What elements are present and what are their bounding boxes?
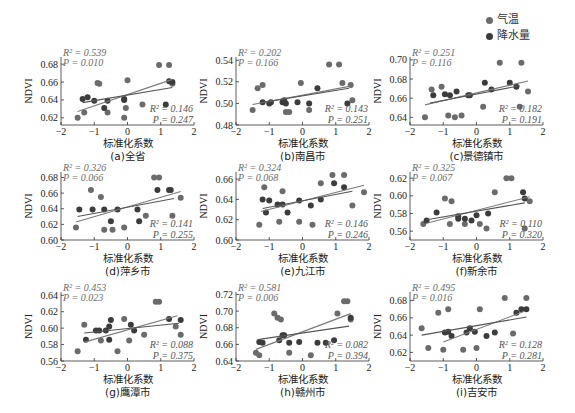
data-point [349, 202, 355, 208]
y-tick-label: 0.62 [41, 112, 59, 123]
data-point [121, 224, 127, 230]
regression-line [259, 326, 349, 339]
y-tick-label: 0.60 [41, 235, 59, 246]
stats-precipitation-r2: R² = 0.110 [498, 218, 542, 229]
panel-title: (g)鹰潭市 [105, 386, 150, 398]
stats-temperature-p: P = 0.006 [237, 292, 278, 303]
y-tick-label: 0.66 [390, 312, 408, 323]
stats-precipitation-r2: R² = 0.146 [149, 103, 193, 114]
data-point [483, 226, 489, 232]
stats-precipitation-r2: R² = 0.088 [149, 339, 193, 350]
data-point [523, 295, 529, 301]
data-point [455, 216, 461, 222]
x-axis-label: 标准化系数 [103, 252, 154, 264]
data-point [250, 107, 256, 113]
y-tick-label: 0.62 [390, 347, 408, 358]
data-point [339, 80, 345, 86]
data-point [439, 84, 445, 90]
legend-label-temperature: 气温 [497, 12, 519, 28]
data-point [286, 350, 292, 356]
scatter-panel: −2−10120.480.500.520.54NDVI标准化系数(b)南昌市R²… [198, 47, 372, 162]
data-point [106, 337, 112, 343]
x-axis-label: 标准化系数 [452, 373, 503, 385]
y-tick-label: 0.66 [390, 93, 408, 104]
data-point [518, 60, 524, 66]
data-point [125, 77, 131, 83]
legend-item-temperature: 气温 [486, 12, 530, 28]
x-tick-label: 1 [333, 126, 338, 137]
y-axis-label: NDVI [23, 194, 34, 219]
data-point [266, 197, 272, 203]
data-point [474, 345, 480, 351]
data-point [334, 311, 340, 317]
data-point [260, 196, 266, 202]
y-tick-label: 0.64 [41, 290, 59, 301]
y-axis-label: NDVI [372, 79, 383, 104]
data-point [141, 332, 147, 338]
data-point [492, 330, 498, 336]
y-axis-label: NDVI [23, 79, 34, 104]
x-tick-label: 2 [192, 126, 197, 137]
panel-title: (f)新余市 [456, 265, 498, 277]
x-tick-label: 1 [333, 241, 338, 252]
data-point [336, 62, 342, 68]
temperature-marker-icon [486, 17, 493, 24]
data-point [474, 212, 480, 218]
panel-title: (i)吉安市 [456, 386, 497, 398]
y-tick-label: 0.70 [216, 306, 234, 317]
legend: 气温 降水量 [486, 12, 530, 44]
legend-item-precipitation: 降水量 [486, 28, 530, 44]
data-point [75, 115, 81, 121]
x-tick-label: −1 [438, 241, 449, 252]
data-point [286, 109, 292, 115]
y-tick-label: 0.58 [390, 208, 408, 219]
x-tick-label: 0 [125, 241, 130, 252]
stats-temperature-p: P = 0.066 [62, 172, 103, 183]
data-point [314, 85, 320, 91]
x-tick-label: −1 [89, 241, 100, 252]
data-point [454, 88, 460, 94]
x-tick-label: 1 [333, 362, 338, 373]
scatter-panel: −2−10120.560.580.600.620.64NDVI标准化系数(g)鹰… [23, 282, 197, 398]
x-tick-label: 0 [300, 241, 305, 252]
data-point [326, 62, 332, 68]
data-point [121, 115, 127, 121]
data-point [430, 92, 436, 98]
data-point [331, 180, 337, 186]
x-tick-label: 2 [367, 126, 372, 137]
data-point [143, 213, 149, 219]
data-point [261, 184, 267, 190]
x-axis-label: 标准化系数 [452, 252, 503, 264]
y-tick-label: 0.68 [216, 322, 234, 333]
y-tick-label: 0.52 [216, 76, 234, 87]
data-point [442, 195, 448, 201]
x-axis-label: 标准化系数 [278, 137, 329, 149]
data-point [96, 81, 102, 87]
data-point [508, 175, 514, 181]
data-point [485, 211, 491, 217]
data-point [469, 218, 475, 224]
data-point [447, 92, 453, 98]
legend-label-precipitation: 降水量 [497, 28, 530, 44]
regression-line [263, 191, 353, 208]
data-point [306, 107, 312, 113]
data-point [90, 207, 96, 213]
panel-title: (h)赣州市 [280, 386, 325, 398]
x-tick-label: 2 [192, 362, 197, 373]
data-point [255, 85, 261, 91]
data-point [462, 221, 468, 227]
data-point [483, 333, 489, 339]
y-tick-label: 0.68 [390, 295, 408, 306]
data-point [88, 187, 94, 193]
data-point [101, 227, 107, 233]
x-tick-label: −2 [405, 241, 416, 252]
stats-precipitation-p: P = 0.375 [152, 350, 193, 361]
y-tick-label: 0.60 [216, 235, 234, 246]
scatter-panel: −2−10120.620.640.660.68NDVI标准化系数(i)吉安市R²… [372, 282, 546, 398]
data-point [76, 207, 82, 213]
data-point [520, 189, 526, 195]
y-tick-label: 0.70 [390, 54, 408, 65]
y-tick-label: 0.68 [41, 59, 59, 70]
data-point [106, 324, 112, 330]
y-tick-label: 0.64 [216, 356, 234, 367]
